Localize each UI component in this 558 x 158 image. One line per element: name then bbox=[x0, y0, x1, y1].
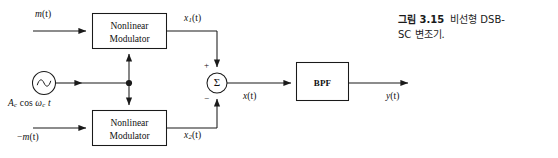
figure-caption-line2: SC 변조기. bbox=[398, 29, 445, 40]
input-label-m: m(t) bbox=[35, 10, 51, 20]
carrier-time-var: t bbox=[46, 98, 51, 108]
summer-plus-sign: + bbox=[204, 60, 209, 70]
nonlinear-modulator-top-label: Nonlinear Modulator bbox=[92, 20, 167, 45]
signal-label-x2-arg: (t) bbox=[192, 130, 201, 140]
nonlinear-modulator-top-line2: Modulator bbox=[92, 33, 167, 46]
figure-caption-label: 그림 3.15 bbox=[398, 14, 444, 25]
carrier-source-label: Accosωct bbox=[8, 99, 51, 109]
figure-root: Nonlinear Modulator Nonlinear Modulator … bbox=[0, 0, 558, 158]
input-label-minus-m-arg: (t) bbox=[29, 132, 38, 142]
signal-label-x1-arg: (t) bbox=[192, 13, 201, 23]
figure-caption-line1-rest: 비선형 DSB- bbox=[444, 14, 505, 25]
figure-caption: 그림 3.15비선형 DSB- SC 변조기. bbox=[398, 12, 550, 42]
carrier-omega: ω bbox=[33, 98, 42, 108]
nonlinear-modulator-top-line1: Nonlinear bbox=[92, 20, 167, 33]
sigma-symbol: Σ bbox=[210, 76, 224, 88]
signal-label-x2: x2(t) bbox=[184, 131, 201, 141]
signal-label-x: x(t) bbox=[243, 92, 257, 102]
nonlinear-modulator-bottom-label: Nonlinear Modulator bbox=[92, 117, 167, 142]
input-label-m-arg: (t) bbox=[42, 9, 51, 19]
nonlinear-modulator-bottom-line1: Nonlinear bbox=[92, 117, 167, 130]
carrier-junction-dot bbox=[126, 80, 132, 86]
input-label-m-base: m bbox=[35, 9, 42, 19]
signal-label-y-arg: (t) bbox=[390, 91, 399, 101]
signal-label-y: y(t) bbox=[386, 92, 400, 102]
signal-label-x1: x1(t) bbox=[184, 14, 201, 24]
signal-label-x-arg: (t) bbox=[247, 91, 256, 101]
carrier-cos: cos bbox=[17, 98, 32, 108]
bpf-label: BPF bbox=[296, 77, 349, 90]
summer-minus-sign: − bbox=[204, 93, 209, 103]
input-label-minus-m: −m(t) bbox=[17, 133, 39, 143]
carrier-omega-subscript: c bbox=[42, 101, 45, 108]
nonlinear-modulator-bottom-line2: Modulator bbox=[92, 130, 167, 143]
